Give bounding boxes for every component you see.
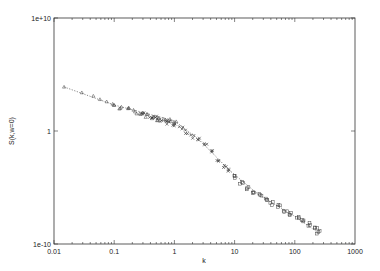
- data-point: [148, 116, 151, 119]
- data-point: [178, 125, 181, 128]
- y-tick-labels: 1e-1011e+10: [31, 15, 51, 248]
- data-point: [144, 116, 147, 119]
- y-tick-label: 1e-10: [33, 241, 51, 248]
- data-point: [205, 143, 208, 146]
- x-tick-labels: 0.010.11101001000: [47, 248, 363, 255]
- data-point: [192, 134, 195, 137]
- axis-ticks: [54, 18, 355, 244]
- y-tick-label: 1: [47, 128, 51, 135]
- chart-svg: 0.010.11101001000 1e-1011e+10 k S(k,w=0): [0, 0, 380, 271]
- data-point: [166, 123, 169, 126]
- data-point: [62, 85, 65, 88]
- data-point: [135, 112, 138, 115]
- plot-frame: [54, 18, 355, 244]
- data-point: [189, 134, 192, 137]
- fit-line: [64, 87, 318, 233]
- x-tick-label: 1: [172, 248, 176, 255]
- data-point: [184, 132, 187, 135]
- x-tick-label: 1000: [347, 248, 363, 255]
- data-point: [191, 137, 194, 140]
- data-points: [62, 85, 321, 235]
- data-point: [92, 94, 95, 97]
- x-tick-label: 0.1: [109, 248, 119, 255]
- data-point: [105, 100, 108, 103]
- y-tick-label: 1e+10: [31, 15, 51, 22]
- x-tick-label: 10: [231, 248, 239, 255]
- x-tick-label: 0.01: [47, 248, 61, 255]
- x-tick-label: 100: [289, 248, 301, 255]
- y-axis-label: S(k,w=0): [8, 117, 16, 145]
- x-axis-label: k: [202, 257, 206, 264]
- data-point: [80, 91, 83, 94]
